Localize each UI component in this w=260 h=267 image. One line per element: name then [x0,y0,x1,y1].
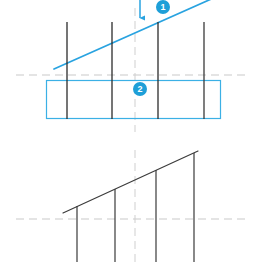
callout-badge-2[interactable]: 2 [133,82,147,96]
figure-svg [0,0,260,267]
lower-inclined-line [63,151,198,213]
callout-badge-1[interactable]: 1 [156,0,170,14]
lower-panel [16,150,245,265]
figure-canvas: 1 2 [0,0,260,267]
upper-panel [16,0,245,132]
upper-inclined-load-line [54,0,218,69]
